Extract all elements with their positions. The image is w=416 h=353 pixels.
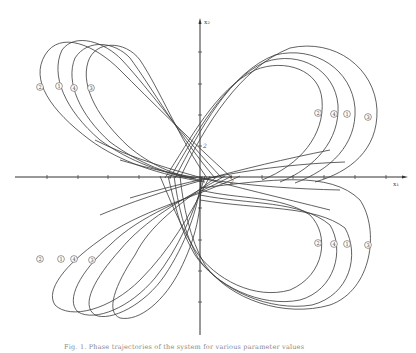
curve-labels-upper-right: 2 4 1 3 — [315, 110, 372, 121]
curve-ll-4 — [89, 176, 225, 317]
curve-ul-4 — [72, 44, 215, 179]
label-ur-2: 1 — [345, 111, 348, 117]
label-ll-2: 4 — [72, 256, 75, 262]
curve-labels-lower-left: 2 1 4 3 — [37, 256, 96, 264]
curve-ur-1 — [175, 53, 355, 183]
y-axis-label: x₂ — [204, 18, 210, 25]
phase-portrait: x₂ x₁ 2 2 2 1 4 3 — [0, 0, 416, 353]
curve-ll-2 — [52, 176, 240, 312]
curve-ul-3 — [86, 45, 207, 178]
label-lr-0: 2 — [316, 240, 319, 246]
trajectory-curves — [40, 41, 377, 319]
label-ll-0: 2 — [38, 256, 41, 262]
figure-caption: Fig. 1. Phase trajectories of the system… — [64, 343, 304, 351]
label-lr-2: 1 — [345, 241, 348, 247]
x-axis-label: x₁ — [393, 180, 399, 187]
label-ur-3: 3 — [366, 114, 369, 120]
y-tick-label: 2 — [202, 142, 207, 149]
curve-labels-lower-right: 2 4 1 3 — [315, 240, 372, 249]
curve-ll-3 — [113, 176, 218, 318]
label-lr-1: 4 — [332, 241, 335, 247]
curve-ur-2 — [165, 65, 322, 180]
label-ur-1: 4 — [332, 111, 335, 117]
label-ll-3: 3 — [90, 257, 93, 263]
x-axis-arrow-icon — [402, 176, 408, 179]
label-ul-1: 1 — [57, 83, 60, 89]
axes: x₂ x₁ 2 2 — [15, 18, 408, 335]
label-ur-0: 2 — [316, 110, 319, 116]
label-ll-1: 1 — [59, 256, 62, 262]
curve-labels-upper-left: 2 1 4 3 — [37, 83, 95, 92]
label-lr-3: 3 — [366, 242, 369, 248]
y-axis-arrow-icon — [199, 18, 202, 24]
curve-lr-3 — [180, 176, 370, 309]
label-ul-2: 4 — [72, 85, 75, 91]
label-ul-0: 2 — [38, 84, 41, 90]
label-ul-3: 3 — [89, 85, 92, 91]
